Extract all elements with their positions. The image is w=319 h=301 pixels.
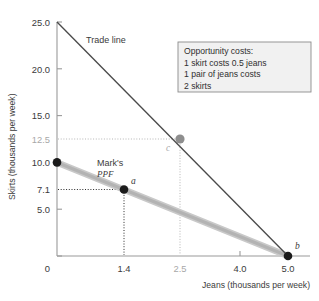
trade-line-label: Trade line <box>86 35 126 45</box>
x-ticklabel-1-4: 1.4 <box>117 263 130 274</box>
x-ticklabel-2-5: 2.5 <box>173 263 186 274</box>
y-axis-title: Skirts (thousands per week) <box>7 93 17 200</box>
marks-ppf-core <box>57 162 288 256</box>
marks-ppf-label-name: Mark's <box>97 158 124 168</box>
x-ticklabel-5-0: 5.0 <box>281 263 294 274</box>
data-point-c <box>175 134 184 143</box>
y-ticklabel-20: 20.0 <box>32 64 50 75</box>
ppf-trade-line-chart: Skirts (thousands per week) 25.0 20.0 15… <box>0 0 319 301</box>
opportunity-costs-line-3: 1 pair of jeans costs <box>184 69 260 79</box>
data-point-a <box>120 185 129 194</box>
x-axis-title: Jeans (thousands per week) <box>202 280 310 290</box>
data-point-origin-10 <box>53 158 62 167</box>
y-ticklabel-5: 5.0 <box>37 204 50 215</box>
opportunity-costs-line-4: 2 skirts <box>184 81 211 91</box>
opportunity-costs-line-1: Opportunity costs: <box>184 46 253 56</box>
opportunity-costs-box: Opportunity costs: 1 skirt costs 0.5 jea… <box>178 42 311 92</box>
y-ticklabel-12-5: 12.5 <box>32 134 50 145</box>
opportunity-costs-line-2: 1 skirt costs 0.5 jeans <box>184 58 267 68</box>
y-ticklabel-25: 25.0 <box>32 17 50 28</box>
x-ticklabel-4-0: 4.0 <box>233 263 246 274</box>
y-ticklabel-15: 15.0 <box>32 110 50 121</box>
y-ticklabel-0: 0 <box>45 263 50 274</box>
data-point-b <box>284 252 293 261</box>
marks-ppf-label-abbr: PPF <box>96 169 114 179</box>
data-point-label-a: a <box>131 176 136 186</box>
y-ticklabel-7-1: 7.1 <box>37 184 50 195</box>
data-point-label-c: c <box>166 143 171 153</box>
y-ticklabel-10: 10.0 <box>32 157 50 168</box>
data-point-label-b: b <box>295 241 300 251</box>
